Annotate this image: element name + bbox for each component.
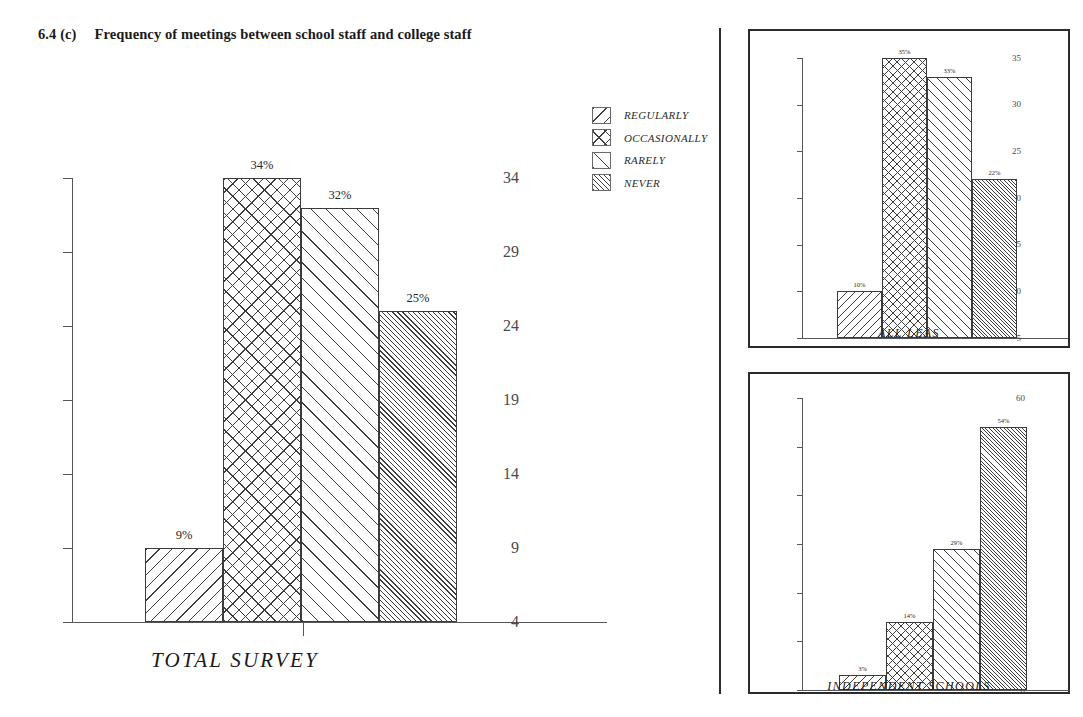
legend-swatch-never bbox=[592, 174, 611, 191]
chart-caption-all-leas: ALL LEAS bbox=[750, 326, 1068, 341]
y-axis-tick bbox=[797, 198, 802, 199]
y-axis-tick bbox=[797, 641, 802, 642]
legend-swatch-occasionally bbox=[592, 129, 611, 146]
chart-caption-total-survey: TOTAL SURVEY bbox=[0, 648, 470, 673]
legend-item-regularly: REGULARLY bbox=[592, 104, 707, 127]
y-axis-tick bbox=[63, 326, 72, 327]
panel-all-leas: 510152025303510%35%33%22% ALL LEAS bbox=[748, 29, 1070, 348]
bar-value-label: 14% bbox=[886, 612, 933, 619]
y-axis-tick bbox=[797, 105, 802, 106]
bar-value-label: 54% bbox=[980, 417, 1027, 424]
y-axis-tick bbox=[797, 495, 802, 496]
plot-area-independent-schools: 01020304050603%14%29%54% bbox=[802, 398, 1034, 690]
y-axis-tick-label: 30 bbox=[999, 99, 1021, 110]
y-axis-tick bbox=[63, 548, 72, 549]
bar-value-label: 3% bbox=[839, 665, 886, 672]
legend-item-occasionally: OCCASIONALLY bbox=[592, 127, 707, 150]
y-axis-tick-label: 29 bbox=[479, 243, 519, 261]
y-axis-tick-label: 19 bbox=[479, 391, 519, 409]
bar-value-label: 33% bbox=[927, 67, 972, 74]
y-axis-tick bbox=[797, 245, 802, 246]
bar-rarely bbox=[927, 77, 972, 338]
y-axis-tick-label: 60 bbox=[1003, 393, 1025, 404]
bar-value-label: 32% bbox=[301, 188, 379, 203]
bar-value-label: 35% bbox=[882, 48, 927, 55]
y-axis-tick bbox=[797, 291, 802, 292]
bar-never bbox=[972, 179, 1017, 338]
y-axis-tick-label: 34 bbox=[479, 169, 519, 187]
y-axis-tick bbox=[797, 398, 802, 399]
y-axis-tick-label: 25 bbox=[999, 146, 1021, 157]
y-axis-tick-label: 9 bbox=[479, 539, 519, 557]
y-axis-tick bbox=[63, 252, 72, 253]
bar-regularly bbox=[145, 548, 223, 622]
legend-label-never: NEVER bbox=[624, 177, 660, 189]
legend-item-never: NEVER bbox=[592, 172, 707, 195]
y-axis-tick-label: 4 bbox=[479, 613, 519, 631]
y-axis-tick bbox=[797, 544, 802, 545]
legend-label-occasionally: OCCASIONALLY bbox=[624, 132, 707, 144]
y-axis-tick bbox=[63, 622, 72, 623]
y-axis-tick bbox=[797, 58, 802, 59]
y-axis-tick bbox=[63, 474, 72, 475]
y-axis-tick bbox=[797, 447, 802, 448]
bar-value-label: 34% bbox=[223, 158, 301, 173]
bar-value-label: 29% bbox=[933, 539, 980, 546]
panel-independent-schools: 01020304050603%14%29%54% INDEPENDENT SCH… bbox=[748, 372, 1070, 694]
legend-swatch-regularly bbox=[592, 107, 611, 124]
bar-rarely bbox=[301, 208, 379, 622]
legend-label-regularly: REGULARLY bbox=[624, 109, 689, 121]
plot-area-all-leas: 510152025303510%35%33%22% bbox=[802, 58, 1030, 338]
legend-label-rarely: RARELY bbox=[624, 154, 665, 166]
bar-occasionally bbox=[223, 178, 301, 622]
y-axis-tick-label: 24 bbox=[479, 317, 519, 335]
y-axis-tick-label: 35 bbox=[999, 53, 1021, 64]
y-axis-tick bbox=[797, 593, 802, 594]
chart-legend: REGULARLY OCCASIONALLY RARELY NEVER bbox=[592, 104, 707, 194]
bar-value-label: 9% bbox=[145, 528, 223, 543]
chart-caption-independent-schools: INDEPENDENT SCHOOLS bbox=[750, 679, 1068, 694]
plot-area-total-survey: 4914192429349%34%32%25% bbox=[72, 178, 535, 622]
bar-never bbox=[379, 311, 457, 622]
bar-value-label: 25% bbox=[379, 291, 457, 306]
y-axis-tick bbox=[63, 400, 72, 401]
bar-rarely bbox=[933, 549, 980, 690]
y-axis-line bbox=[802, 398, 803, 690]
legend-item-rarely: RARELY bbox=[592, 149, 707, 172]
axis-center-tick bbox=[303, 622, 304, 636]
vertical-divider bbox=[719, 28, 721, 694]
bar-value-label: 10% bbox=[837, 281, 882, 288]
y-axis-line bbox=[802, 58, 803, 338]
legend-swatch-rarely bbox=[592, 152, 611, 169]
y-axis-tick-label: 14 bbox=[479, 465, 519, 483]
y-axis-line bbox=[72, 178, 73, 622]
x-axis-line bbox=[72, 622, 607, 623]
bar-value-label: 22% bbox=[972, 169, 1017, 176]
y-axis-tick bbox=[797, 151, 802, 152]
y-axis-tick bbox=[63, 178, 72, 179]
bar-occasionally bbox=[882, 58, 927, 338]
bar-never bbox=[980, 427, 1027, 690]
